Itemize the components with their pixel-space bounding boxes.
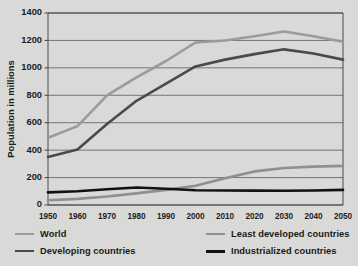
xtick-label: 2000 (186, 212, 205, 221)
y-axis-title-group: Population in millions (5, 60, 16, 157)
legend-swatch-least-developed-countries (206, 233, 225, 235)
ytick-label: 800 (26, 90, 42, 100)
data-line-least-developed-countries (48, 166, 343, 200)
y-axis-title: Population in millions (5, 60, 16, 157)
population-line-chart: 0200400600800100012001400 19501960197019… (0, 0, 358, 266)
legend-swatch-industrialized-countries (206, 250, 225, 253)
ytick-label: 400 (26, 145, 42, 155)
xtick-label: 2010 (216, 212, 235, 221)
data-line-developing-countries (48, 49, 343, 157)
chart-legend: World Least developed countries Developi… (0, 224, 358, 266)
ytick-label: 1000 (21, 62, 42, 72)
ytick-labels-group: 0200400600800100012001400 (21, 7, 42, 209)
axis-group (45, 13, 344, 205)
xtick-label: 1990 (157, 212, 176, 221)
ytick-label: 200 (26, 172, 42, 182)
xtick-label: 1970 (98, 212, 117, 221)
ytick-label: 1400 (21, 7, 42, 17)
legend-swatch-developing-countries (15, 250, 34, 252)
legend-item-developing-countries[interactable]: Developing countries (15, 244, 136, 258)
xtick-label: 1960 (68, 212, 87, 221)
data-lines-group (48, 32, 343, 201)
legend-label-industrialized-countries: Industrialized countries (231, 246, 337, 256)
ytick-label: 600 (26, 117, 42, 127)
ytick-label: 1200 (21, 35, 42, 45)
legend-item-industrialized-countries[interactable]: Industrialized countries (206, 244, 337, 258)
data-line-world (48, 32, 343, 138)
legend-label-developing-countries: Developing countries (40, 246, 136, 256)
xtick-label: 2050 (334, 212, 353, 221)
xtick-label: 1980 (127, 212, 146, 221)
legend-label-least-developed-countries: Least developed countries (231, 229, 350, 239)
data-line-industrialized-countries (48, 187, 343, 192)
ytick-label: 0 (37, 199, 42, 209)
legend-swatch-world (15, 233, 34, 235)
xtick-labels-group: 1950196019701980199020002010202020302040… (39, 212, 353, 221)
legend-label-world: World (40, 229, 66, 239)
xtick-label: 1950 (39, 212, 58, 221)
legend-item-least-developed-countries[interactable]: Least developed countries (206, 227, 350, 241)
xtick-label: 2040 (304, 212, 323, 221)
xtick-label: 2020 (245, 212, 264, 221)
legend-item-world[interactable]: World (15, 227, 66, 241)
xtick-label: 2030 (275, 212, 294, 221)
chart-plot-area: 0200400600800100012001400 19501960197019… (0, 0, 358, 226)
